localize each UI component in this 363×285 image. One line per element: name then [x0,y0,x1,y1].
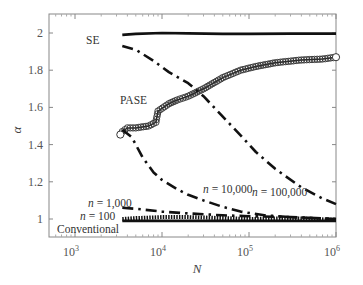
annotation-pase: PASE [120,94,147,106]
series-n-100 [122,217,336,220]
x-axis-title: N [192,261,203,276]
y-axis-title: α [9,125,24,133]
series-se [122,33,336,35]
annotation-conventional: Conventional [57,223,119,235]
y-tick-label: 1.8 [28,63,43,77]
x-tick-label: 104 [150,244,166,259]
annotation-se: SE [86,34,99,46]
series-pase-marker [332,54,339,61]
alpha-vs-n-chart: 11.21.41.61.82 103104105106 α N SE PASE … [0,0,363,285]
y-tick-label: 1 [37,212,43,226]
x-tick-label: 103 [63,244,79,259]
y-tick-label: 1.6 [28,100,43,114]
x-tick-label: 105 [237,244,253,259]
y-tick-label: 1.2 [28,175,43,189]
x-tick-label: 106 [324,244,340,259]
annotation-n-100000: n = 100,000 [252,186,308,199]
series-n-10-000 [122,130,336,219]
annotation-n-1000: n = 1,000 [88,197,132,210]
annotation-n-10000: n = 10,000 [203,183,253,196]
y-tick-label: 2 [37,26,43,40]
y-tick-label: 1.4 [28,138,43,152]
annotation-n-100: n = 100 [80,210,115,222]
series-pase-marker [117,131,124,138]
